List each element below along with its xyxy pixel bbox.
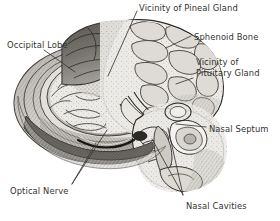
label-optical-nerve: Optical Nerve [10, 186, 69, 196]
label-occipital-lobe: Occipital Lobe [7, 40, 68, 50]
label-vicinity-of-pituitary-gland-line1: Vicinity of [196, 57, 239, 67]
anatomical-diagram-figure: Vicinity of Pineal Gland Sphenoid Bone V… [0, 0, 280, 221]
label-vicinity-of-pituitary-gland-line2: Pituitary Gland [196, 68, 260, 78]
label-nasal-septum: Nasal Septum [209, 124, 269, 134]
label-vicinity-of-pineal-gland: Vicinity of Pineal Gland [139, 3, 238, 13]
label-nasal-cavities: Nasal Cavities [186, 201, 247, 211]
label-sphenoid-bone: Sphenoid Bone [194, 32, 258, 42]
